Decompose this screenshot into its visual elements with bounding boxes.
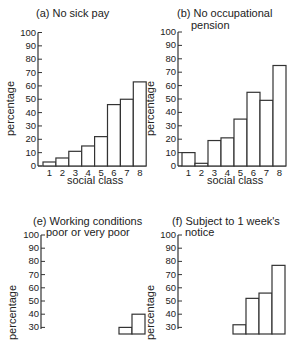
y-tick-label: 100 xyxy=(154,230,176,240)
y-tick-label: 10 xyxy=(154,148,176,158)
bar-class-7 xyxy=(259,293,272,334)
bar-class-5 xyxy=(233,325,246,334)
x-tick-label: 1 xyxy=(43,168,56,178)
x-tick-label: 8 xyxy=(133,168,146,178)
y-tick-label: 30 xyxy=(154,322,176,332)
y-tick-label: 90 xyxy=(154,40,176,50)
y-tick-label: 40 xyxy=(154,309,176,319)
y-tick-label: 60 xyxy=(154,283,176,293)
y-tick-label: 30 xyxy=(14,121,36,131)
x-tick-label: 6 xyxy=(247,168,260,178)
y-tick-label: 40 xyxy=(154,107,176,117)
y-tick-label: 40 xyxy=(14,108,36,118)
x-tick-label: 3 xyxy=(208,168,221,178)
y-tick-label: 30 xyxy=(154,121,176,131)
bar-class-6 xyxy=(246,298,259,334)
y-tick-label: 100 xyxy=(17,230,39,240)
x-tick-label: 7 xyxy=(260,168,273,178)
y-tick-label: 70 xyxy=(14,68,36,78)
y-tick-label: 10 xyxy=(14,148,36,158)
y-tick-label: 50 xyxy=(154,94,176,104)
x-tick-label: 3 xyxy=(69,168,82,178)
x-tick-label: 8 xyxy=(273,168,286,178)
y-tick-label: 30 xyxy=(17,322,39,332)
x-tick-label: 2 xyxy=(195,168,208,178)
y-tick-label: 60 xyxy=(14,81,36,91)
y-tick-label: 70 xyxy=(17,270,39,280)
y-tick-label: 70 xyxy=(154,67,176,77)
y-tick-label: 20 xyxy=(14,134,36,144)
y-tick-label: 80 xyxy=(14,54,36,64)
y-tick-label: 80 xyxy=(154,54,176,64)
y-tick-label: 20 xyxy=(154,134,176,144)
y-tick-label: 60 xyxy=(17,283,39,293)
x-tick-label: 4 xyxy=(82,168,95,178)
x-tick-label: 6 xyxy=(108,168,121,178)
y-tick-label: 90 xyxy=(154,243,176,253)
bar-class-8 xyxy=(272,265,285,334)
y-tick-label: 100 xyxy=(14,28,36,38)
y-tick-label: 60 xyxy=(154,81,176,91)
y-tick-label: 70 xyxy=(154,270,176,280)
y-tick-label: 80 xyxy=(17,256,39,266)
x-tick-label: 7 xyxy=(120,168,133,178)
y-tick-label: 50 xyxy=(17,296,39,306)
y-tick-label: 40 xyxy=(17,309,39,319)
x-tick-label: 4 xyxy=(221,168,234,178)
y-tick-label: 50 xyxy=(154,296,176,306)
x-tick-label: 1 xyxy=(182,168,195,178)
y-tick-label: 90 xyxy=(14,41,36,51)
x-tick-label: 2 xyxy=(56,168,69,178)
y-tick-label: 50 xyxy=(14,94,36,104)
y-tick-label: 80 xyxy=(154,256,176,266)
y-tick-label: 0 xyxy=(14,161,36,171)
y-tick-label: 90 xyxy=(17,243,39,253)
x-tick-label: 5 xyxy=(95,168,108,178)
x-tick-label: 5 xyxy=(234,168,247,178)
y-tick-label: 0 xyxy=(154,161,176,171)
y-tick-label: 100 xyxy=(154,27,176,37)
